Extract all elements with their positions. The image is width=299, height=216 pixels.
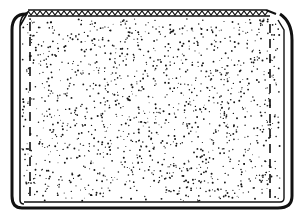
zigzag-stitch-top: [28, 11, 268, 15]
stipple-fill: [21, 18, 280, 202]
panel-outline: [12, 14, 292, 208]
diagram-canvas: [0, 0, 299, 216]
fabric-panel-illustration: [0, 0, 299, 216]
